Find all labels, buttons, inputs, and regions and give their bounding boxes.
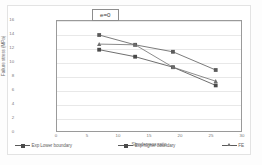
data-point-marker bbox=[171, 50, 175, 54]
y-axis-tick-8: 8 bbox=[0, 74, 14, 78]
legend-marker-triangle-icon bbox=[222, 143, 237, 148]
x-axis-tick-10: 10 bbox=[110, 134, 126, 138]
y-axis-tick-4: 4 bbox=[0, 102, 14, 106]
data-point-marker bbox=[97, 48, 101, 52]
y-axis-tick-12: 12 bbox=[0, 46, 14, 50]
y-axis-tick-16: 16 bbox=[0, 18, 14, 22]
plot-area bbox=[56, 20, 242, 132]
data-point-marker bbox=[214, 68, 218, 72]
legend-marker-square-icon bbox=[15, 143, 30, 148]
y-axis-title: Failure stress (MPa) bbox=[1, 36, 6, 76]
legend-marker-square-icon bbox=[118, 143, 133, 148]
chart-legend: Exp Lower boundary Exp higher boundary F… bbox=[13, 143, 246, 148]
data-point-marker bbox=[97, 33, 101, 37]
x-axis-tick-5: 5 bbox=[79, 134, 95, 138]
chart-figure: Failure stress (MPa) 0 2 4 6 8 10 12 14 … bbox=[0, 0, 262, 165]
legend-item-fe[interactable]: FE bbox=[222, 143, 244, 148]
annotation-box: e=0 bbox=[92, 9, 119, 21]
y-axis-tick-14: 14 bbox=[0, 32, 14, 36]
series-plot bbox=[57, 21, 243, 133]
x-axis-tick-20: 20 bbox=[172, 134, 188, 138]
x-axis-tick-30: 30 bbox=[234, 134, 250, 138]
legend-label: Exp Lower boundary bbox=[32, 143, 72, 148]
data-point-marker bbox=[214, 84, 218, 88]
legend-item-exp-higher-boundary[interactable]: Exp higher boundary bbox=[118, 143, 175, 148]
y-axis-tick-6: 6 bbox=[0, 88, 14, 92]
y-axis-tick-0: 0 bbox=[0, 130, 14, 134]
series-line bbox=[99, 35, 216, 70]
legend-label: Exp higher boundary bbox=[135, 143, 176, 148]
series-line bbox=[99, 50, 216, 86]
data-point-marker bbox=[133, 55, 137, 59]
legend-label: FE bbox=[238, 143, 244, 148]
legend-item-exp-lower-boundary[interactable]: Exp Lower boundary bbox=[15, 143, 72, 148]
y-axis-tick-10: 10 bbox=[0, 60, 14, 64]
chart-frame: Failure stress (MPa) 0 2 4 6 8 10 12 14 … bbox=[7, 5, 251, 155]
x-axis-tick-25: 25 bbox=[203, 134, 219, 138]
x-axis-tick-0: 0 bbox=[48, 134, 64, 138]
y-axis-tick-2: 2 bbox=[0, 116, 14, 120]
x-axis-tick-15: 15 bbox=[141, 134, 157, 138]
